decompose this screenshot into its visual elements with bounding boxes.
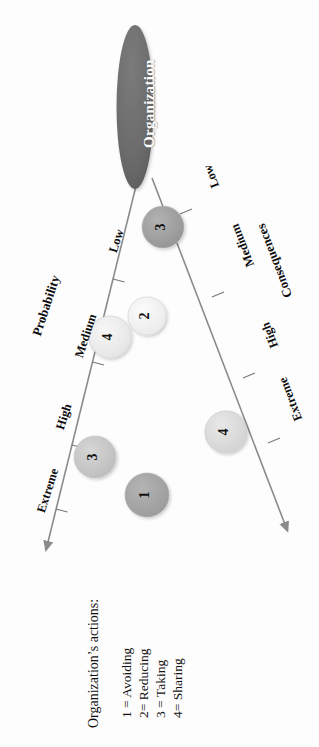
node-3-top[interactable] (142, 206, 184, 248)
node-4-right[interactable] (205, 411, 247, 453)
node-1[interactable] (125, 473, 169, 517)
node-3-left[interactable] (74, 436, 116, 478)
legend-item-4: 4= Sharing (170, 658, 186, 718)
node-2[interactable] (128, 297, 166, 335)
figure-canvas: Organization Probability Low Medium High… (0, 0, 319, 747)
legend-item-2: 2= Reducing (136, 649, 152, 718)
legend-title: Organization’s actions: (86, 599, 102, 728)
legend-item-3: 3 = Taking (153, 660, 169, 718)
diagram-svg (0, 0, 319, 747)
organization-label: Organization (141, 59, 158, 148)
legend-item-1: 1 = Avoiding (119, 648, 135, 718)
